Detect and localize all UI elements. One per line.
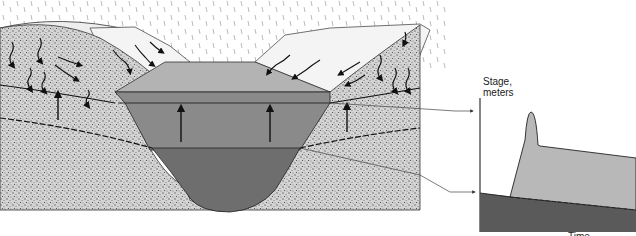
y-axis-label: Stage, meters xyxy=(483,76,514,98)
y-label-line2: meters xyxy=(483,87,514,98)
x-label-text: Time xyxy=(568,231,590,236)
hydrograph xyxy=(480,98,636,232)
y-label-line1: Stage, xyxy=(483,76,514,87)
raised-baseflow-water xyxy=(115,92,330,150)
x-axis-label: Time xyxy=(568,231,590,236)
stream-hydrograph-diagram xyxy=(0,0,636,236)
stormflow-hydrograph xyxy=(510,112,636,210)
